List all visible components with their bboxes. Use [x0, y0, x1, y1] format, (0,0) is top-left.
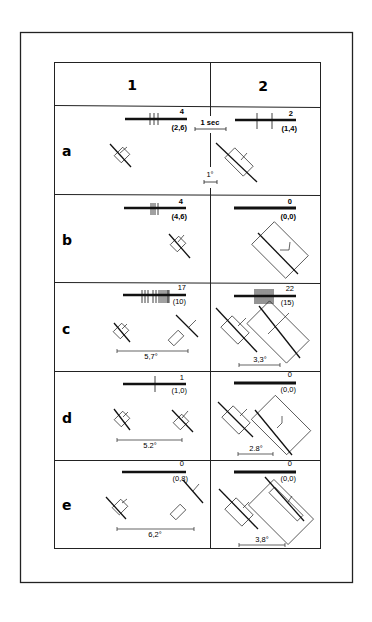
receptive-field-e1-right: [170, 504, 186, 520]
angle-label-d1: 5.2°: [143, 441, 156, 450]
spike-count-d2: 0: [288, 370, 292, 379]
stimulus-bar-b1: [169, 234, 190, 258]
angle-label-e2: 3,8°: [255, 535, 268, 544]
spike-rate-d2: (0,0): [281, 385, 297, 394]
spike-rate-e1: (0,8): [173, 474, 189, 483]
column-header-2: 2: [258, 78, 268, 94]
spike-count-c2: 22: [286, 284, 294, 293]
receptive-field-a1: [114, 147, 130, 163]
stimulus-bar-a2: [216, 143, 257, 182]
spike-count-e2: 0: [288, 459, 292, 468]
row-label-d: d: [62, 410, 72, 426]
spike-count-a2: 2: [289, 109, 293, 118]
stimulus-bar-d2-small: [218, 402, 253, 437]
stimulus-bar-e1-right: [183, 480, 203, 503]
time-calibration-label: 1 sec: [201, 118, 220, 127]
spike-rate-a1: (2,6): [172, 123, 188, 132]
stimulus-bar-c1-right: [176, 315, 198, 337]
receptive-field-a2: [225, 148, 253, 176]
angle-label-e1: 6,2°: [148, 530, 161, 539]
spike-rate-e2: (0,0): [281, 474, 297, 483]
stimulus-bar-c2-large: [259, 306, 300, 358]
spike-count-a1: 4: [180, 107, 185, 116]
time-calibration-bar: [195, 127, 226, 131]
spike-count-c1: 17: [178, 283, 186, 292]
spike-count-d1: 1: [180, 373, 184, 382]
row-label-b: b: [62, 232, 72, 248]
stimulus-bar-c1-left: [114, 323, 130, 342]
angle-calibration-label: 1°: [206, 170, 213, 179]
spike-rate-b2: (0,0): [281, 212, 297, 221]
receptive-field-e2-small: [225, 498, 253, 526]
angle-calibration-bar: [204, 180, 217, 184]
receptive-field-c2-large: [247, 301, 309, 363]
spike-rate-a2: (1,4): [282, 124, 298, 133]
stimulus-bar-e2-large: [265, 477, 304, 521]
column-header-1: 1: [127, 77, 137, 93]
stimulus-bar-a1: [110, 144, 131, 167]
row-label-e: e: [62, 497, 72, 513]
spike-rate-c1: (10): [173, 297, 187, 306]
receptive-field-b2: [252, 222, 309, 279]
spike-count-b1: 4: [179, 197, 184, 206]
spike-rate-b1: (4,6): [172, 212, 188, 221]
angle-label-c1: 5,7°: [144, 352, 157, 361]
stimulus-bar-c2-small: [216, 308, 257, 352]
angle-label-d2: 2.8°: [249, 444, 262, 453]
spike-count-b2: 0: [288, 197, 292, 206]
angle-label-c2: 3,3°: [253, 355, 266, 364]
receptive-field-c1-right: [168, 330, 184, 346]
row-label-c: c: [62, 321, 70, 337]
spike-rate-d1: (1,0): [172, 386, 188, 395]
row-label-a: a: [62, 143, 71, 159]
stimulus-bar-e1-left: [106, 497, 126, 519]
spike-rate-c2: (15): [281, 298, 295, 307]
receptive-field-figure: 1 2 1 sec 1° a b c d e 4 (2,6) 2 (1,4) 4…: [0, 0, 372, 622]
spike-count-e1: 0: [180, 459, 184, 468]
